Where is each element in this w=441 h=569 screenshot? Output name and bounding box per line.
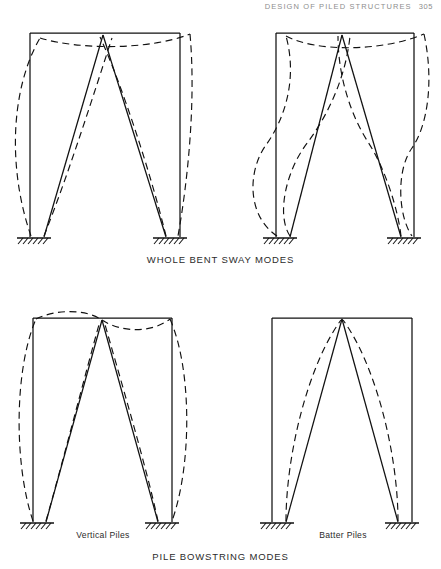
mode-shape-cap-beam	[40, 34, 190, 47]
diagram-bowstring-vertical	[0, 305, 230, 535]
mode-shape-vertical-left	[15, 38, 40, 236]
mode-shape-cap-beam-right-bay	[102, 319, 170, 330]
figure-page: DESIGN OF PILED STRUCTURES305	[0, 0, 441, 569]
diagram-bowstring-batter	[246, 305, 441, 535]
batter-pile-right	[342, 319, 398, 522]
batter-pile-left	[286, 319, 342, 522]
fixed-support-right	[387, 238, 421, 244]
mode-shape-cap-beam	[286, 34, 424, 48]
batter-pile-left	[290, 35, 342, 237]
label-vertical-piles: Vertical Piles	[28, 530, 178, 540]
batter-pile-right	[342, 35, 401, 237]
batter-pile-left	[46, 320, 102, 522]
batter-pile-right	[102, 320, 158, 522]
label-batter-piles: Batter Piles	[268, 530, 418, 540]
diagram-sway-mode-1	[0, 20, 230, 250]
batter-pile-left	[44, 35, 103, 237]
fixed-support-left	[263, 238, 297, 244]
figure-area: WHOLE BENT SWAY MODES	[0, 0, 441, 569]
caption-bowstring-modes: PILE BOWSTRING MODES	[0, 551, 441, 562]
fixed-support-left	[17, 238, 51, 244]
fixed-support-right	[385, 523, 419, 529]
mode-shape-vertical-right	[401, 34, 429, 236]
caption-sway-modes: WHOLE BENT SWAY MODES	[0, 254, 441, 265]
mode-shape-vertical-left	[253, 36, 291, 236]
fixed-support-right	[145, 523, 179, 529]
mode-shape-batter-left	[44, 38, 112, 236]
diagram-sway-mode-2	[246, 20, 441, 250]
fixed-support-left	[260, 523, 294, 529]
mode-shape-cap-beam-left-bay	[36, 312, 102, 320]
fixed-support-left	[20, 523, 54, 529]
fixed-support-right	[153, 238, 187, 244]
mode-shape-batter-left	[284, 36, 350, 236]
